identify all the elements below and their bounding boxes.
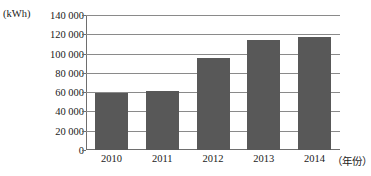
plot-area [86,15,340,150]
y-tick-label: 80 000 [36,67,84,78]
bar-chart: (kWh) 140 000 120 000 100 000 80 000 60 … [0,0,371,176]
y-tick-label: 40 000 [36,106,84,117]
y-tick-label: 140 000 [36,10,84,21]
y-axis-tickmark [82,150,86,151]
y-axis-tick-labels: 140 000 120 000 100 000 80 000 60 000 40… [36,0,84,176]
bar-2013 [247,40,280,150]
y-tick-label: 60 000 [36,87,84,98]
bar-series [86,15,340,150]
bar-2012 [197,58,230,150]
y-tick-label: 120 000 [36,29,84,40]
y-axis-unit-label: (kWh) [3,8,30,19]
bar-2014 [298,37,331,150]
bar-2010 [95,93,128,150]
bar-2011 [146,91,179,150]
x-axis-tick-labels: 2010 2011 2012 2013 2014 [86,153,340,173]
y-tick-label: 0 [36,145,84,156]
y-tick-label: 20 000 [36,125,84,136]
x-axis-caption: （年份） [332,153,371,168]
y-tick-label: 100 000 [36,48,84,59]
